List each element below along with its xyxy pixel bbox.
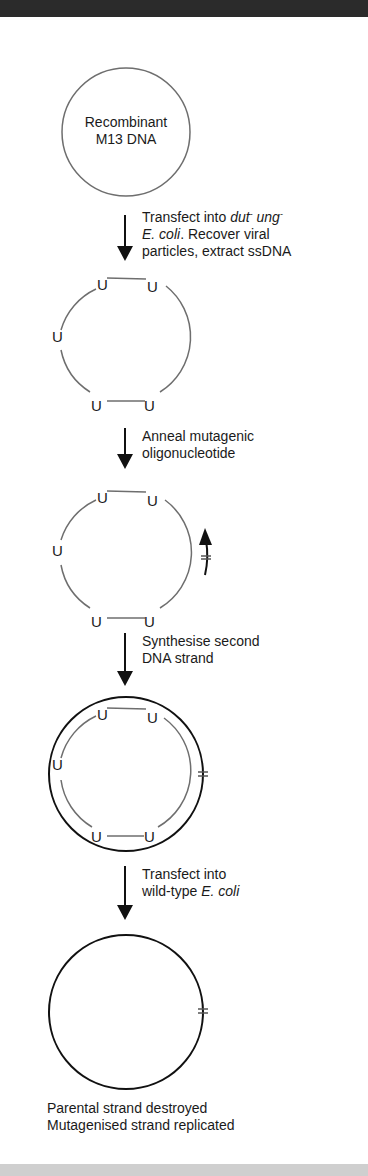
- svg-text:U: U: [144, 613, 155, 630]
- svg-text:U: U: [52, 756, 63, 773]
- step-3-text: Synthesise second DNA strand: [142, 633, 260, 667]
- svg-text:U: U: [91, 828, 102, 845]
- svg-text:U: U: [52, 328, 63, 345]
- step-2-text: Anneal mutagenic oligonucleotide: [142, 428, 254, 462]
- start-line-1: Recombinant: [76, 114, 176, 131]
- svg-text:U: U: [91, 397, 102, 414]
- mutagenic-oligo-primer-icon: [199, 528, 212, 575]
- start-node-label: Recombinant M13 DNA: [76, 114, 176, 148]
- svg-text:U: U: [147, 709, 158, 726]
- svg-text:U: U: [97, 706, 108, 723]
- parental-strand-circle: [61, 708, 191, 836]
- start-line-2: M13 DNA: [76, 131, 176, 148]
- arrow-down-icon: [117, 866, 133, 920]
- outcome-text: Parental strand destroyed Mutagenised st…: [47, 1100, 235, 1134]
- svg-text:U: U: [97, 489, 108, 506]
- svg-text:U: U: [97, 276, 108, 293]
- annealed-primer-circle: [61, 491, 191, 618]
- mutant-progeny-circle: [49, 935, 203, 1089]
- uracil-labels: UU U UU: [52, 276, 158, 414]
- svg-text:U: U: [144, 828, 155, 845]
- svg-text:U: U: [144, 397, 155, 414]
- arrow-down-icon: [117, 428, 133, 469]
- arrow-down-icon: [117, 215, 133, 261]
- ssdna-uracil-circle: [61, 278, 191, 401]
- svg-text:U: U: [91, 613, 102, 630]
- arrow-down-icon: [117, 633, 133, 686]
- step-4-text: Transfect into wild-type E. coli: [142, 866, 239, 900]
- new-strand-circle: [49, 697, 203, 851]
- step-1-text: Transfect into dut- ung- E. coli. Recove…: [142, 206, 291, 260]
- bottom-bar: [0, 1164, 368, 1176]
- svg-text:U: U: [147, 278, 158, 295]
- svg-text:U: U: [147, 492, 158, 509]
- mutagenesis-flow-diagram: UU U UU UU U UU UU U: [0, 0, 368, 1176]
- svg-text:U: U: [52, 542, 63, 559]
